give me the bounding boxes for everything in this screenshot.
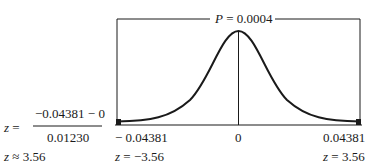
x-tick-center: 0 — [235, 131, 242, 144]
left-tail-shading — [116, 119, 121, 125]
p-value-bracket — [117, 19, 210, 125]
right-tail-shading — [356, 119, 361, 125]
z-tick-left: z = −3.56 — [115, 150, 164, 163]
p-value-label: P = 0.0004 — [213, 12, 275, 25]
p-value-bracket-right — [271, 19, 360, 125]
z-formula-denominator: 0.01230 — [47, 131, 89, 144]
x-tick-right: 0.04381 — [323, 131, 365, 144]
z-approx-result: z ≈ 3.56 — [4, 150, 45, 163]
z-formula-lhs: z = — [4, 121, 20, 134]
z-formula-numerator: −0.04381 − 0 — [35, 107, 105, 120]
x-tick-left: − 0.04381 — [115, 131, 168, 144]
z-tick-right: z = 3.56 — [323, 150, 365, 163]
